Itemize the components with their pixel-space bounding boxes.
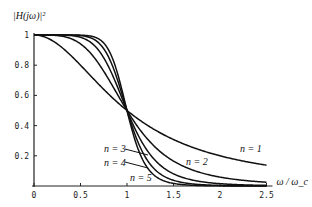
y-tick-label: 0.4 <box>15 122 30 131</box>
curve-n2 <box>34 35 267 182</box>
x-tick-label: 0 <box>32 191 37 200</box>
series-label-n2: n = 2 <box>186 156 208 167</box>
y-tick-label: 0.6 <box>15 91 30 100</box>
series-label-n4: n = 4 <box>104 157 126 168</box>
y-axis-label: |H(jω)|² <box>13 10 46 22</box>
labels: |H(jω)|²ω / ω_cn = 1n = 2n = 3n = 4n = 5 <box>13 10 308 187</box>
x-tick-label: 2 <box>218 191 223 200</box>
curve-n4 <box>34 35 267 186</box>
series-label-n1: n = 1 <box>240 143 262 154</box>
y-tick-label: 0.2 <box>15 152 30 161</box>
curve-n1 <box>34 35 267 165</box>
x-axis-label: ω / ω_c <box>277 176 309 187</box>
plot-svg: 00.511.522.50.20.40.60.81 |H(jω)|²ω / ω_… <box>0 0 312 207</box>
x-tick-label: 1 <box>125 191 130 200</box>
curve-n3 <box>34 35 267 185</box>
series-label-n5: n = 5 <box>130 172 152 183</box>
series-label-n3: n = 3 <box>104 143 126 154</box>
curves <box>34 35 267 186</box>
y-tick-label: 0.8 <box>15 61 30 70</box>
x-tick-label: 2.5 <box>259 191 274 200</box>
y-tick-label: 1 <box>24 31 29 40</box>
x-tick-label: 1.5 <box>166 191 181 200</box>
butterworth-chart: 00.511.522.50.20.40.60.81 |H(jω)|²ω / ω_… <box>0 0 312 207</box>
x-tick-label: 0.5 <box>73 191 88 200</box>
